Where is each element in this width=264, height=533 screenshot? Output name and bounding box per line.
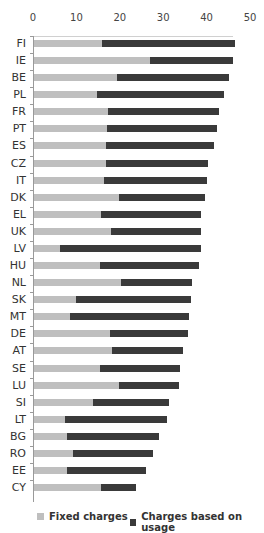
bar-segment-fixed <box>34 279 121 286</box>
y-tick-mark <box>30 395 33 396</box>
y-tick-mark <box>30 446 33 447</box>
y-tick-mark <box>30 412 33 413</box>
legend-swatch-usage <box>130 519 136 526</box>
bar-segment-fixed <box>34 399 93 406</box>
bar-row: RO <box>0 446 264 463</box>
bar-segment-usage <box>100 365 180 372</box>
category-label: HU <box>0 259 26 272</box>
legend-label-usage: Charges based on usage <box>141 511 264 533</box>
bar-row: LU <box>0 378 264 395</box>
y-tick-mark <box>30 138 33 139</box>
bar-segment-usage <box>67 433 159 440</box>
bar-segment-usage <box>117 74 229 81</box>
y-tick-mark <box>30 275 33 276</box>
x-tick-label: 50 <box>244 12 257 23</box>
y-tick-mark <box>30 36 33 37</box>
bar-segment-usage <box>106 160 208 167</box>
bar-row: IE <box>0 53 264 70</box>
legend-item-fixed: Fixed charges <box>37 511 128 522</box>
y-tick-mark <box>30 361 33 362</box>
x-tick-label: 0 <box>30 12 36 23</box>
bar-segment-fixed <box>34 262 100 269</box>
bar-segment-fixed <box>34 347 112 354</box>
category-label: EE <box>0 464 26 477</box>
bar-segment-usage <box>100 262 199 269</box>
bar-segment-usage <box>70 313 189 320</box>
bar-segment-usage <box>65 416 167 423</box>
bar-segment-fixed <box>34 313 70 320</box>
bar-row: FR <box>0 104 264 121</box>
y-tick-mark <box>30 156 33 157</box>
category-label: IE <box>0 54 26 67</box>
bar-segment-fixed <box>34 245 60 252</box>
y-tick-mark <box>30 343 33 344</box>
bar-row: SI <box>0 395 264 412</box>
bar-segment-usage <box>102 40 235 47</box>
bar-segment-fixed <box>34 108 108 115</box>
bar-row: HU <box>0 258 264 275</box>
y-tick-mark <box>30 190 33 191</box>
category-label: IT <box>0 174 26 187</box>
bar-row: ES <box>0 138 264 155</box>
bar-segment-usage <box>104 177 207 184</box>
y-tick-mark <box>30 121 33 122</box>
bar-segment-fixed <box>34 194 119 201</box>
category-label: EL <box>0 208 26 221</box>
bar-row: DK <box>0 190 264 207</box>
category-label: DE <box>0 327 26 340</box>
bar-segment-fixed <box>34 57 150 64</box>
bar-row: CZ <box>0 156 264 173</box>
y-tick-mark <box>30 258 33 259</box>
bar-segment-usage <box>60 245 201 252</box>
bar-segment-usage <box>119 194 204 201</box>
bar-row: SK <box>0 292 264 309</box>
y-tick-mark <box>30 429 33 430</box>
bar-segment-usage <box>73 450 153 457</box>
bar-row: PL <box>0 87 264 104</box>
bar-segment-fixed <box>34 330 110 337</box>
y-tick-mark <box>30 378 33 379</box>
bar-segment-fixed <box>34 125 107 132</box>
category-label: FI <box>0 37 26 50</box>
y-tick-mark <box>30 241 33 242</box>
category-label: PL <box>0 88 26 101</box>
y-tick-mark <box>30 224 33 225</box>
category-label: FR <box>0 105 26 118</box>
bar-segment-usage <box>110 330 188 337</box>
category-label: BG <box>0 430 26 443</box>
bar-row: CY <box>0 480 264 497</box>
legend-label-fixed: Fixed charges <box>49 511 128 522</box>
y-tick-mark <box>30 53 33 54</box>
y-tick-mark <box>30 480 33 481</box>
y-tick-mark <box>30 326 33 327</box>
category-label: MT <box>0 310 26 323</box>
bar-segment-usage <box>119 382 178 389</box>
bar-segment-fixed <box>34 382 119 389</box>
category-label: ES <box>0 139 26 152</box>
bar-segment-usage <box>101 484 136 491</box>
category-label: LT <box>0 413 26 426</box>
category-label: NL <box>0 276 26 289</box>
x-tick-label: 20 <box>113 12 126 23</box>
bar-row: UK <box>0 224 264 241</box>
bar-segment-fixed <box>34 296 76 303</box>
x-tick-label: 40 <box>200 12 213 23</box>
bar-segment-usage <box>107 125 217 132</box>
legend-swatch-fixed <box>37 513 44 520</box>
category-label: PT <box>0 122 26 135</box>
category-label: CY <box>0 481 26 494</box>
x-tick-label: 30 <box>157 12 170 23</box>
bar-segment-fixed <box>34 142 106 149</box>
category-label: CZ <box>0 157 26 170</box>
bar-segment-fixed <box>34 211 101 218</box>
bar-segment-usage <box>150 57 233 64</box>
category-label: SK <box>0 293 26 306</box>
bar-row: EE <box>0 463 264 480</box>
bar-segment-usage <box>106 142 213 149</box>
bar-segment-fixed <box>34 160 106 167</box>
y-tick-mark <box>30 207 33 208</box>
bar-segment-usage <box>101 211 200 218</box>
bar-row: AT <box>0 343 264 360</box>
y-tick-mark <box>30 104 33 105</box>
